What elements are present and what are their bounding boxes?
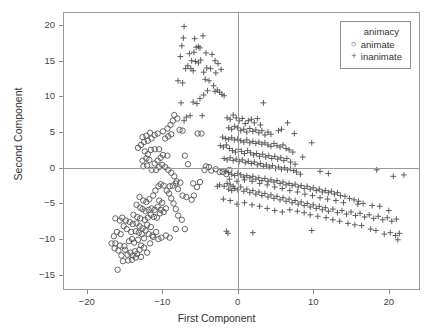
x-tick-label: 0 <box>218 297 258 307</box>
x-tick-mark <box>87 290 88 294</box>
x-tick-mark <box>162 290 163 294</box>
x-tick-label: −20 <box>67 297 107 307</box>
x-axis-label: First Component <box>0 312 433 324</box>
x-tick-label: 10 <box>293 297 333 307</box>
y-tick-label: 5 <box>19 127 55 137</box>
legend-label: inanimate <box>361 51 402 63</box>
y-tick-label: 10 <box>19 91 55 101</box>
x-tick-mark <box>389 290 390 294</box>
y-tick-label: −15 <box>19 270 55 280</box>
zero-horizontal-reference-line <box>64 168 419 169</box>
x-tick-mark <box>313 290 314 294</box>
x-tick-mark <box>238 290 239 294</box>
plot-area: animacy ○animate+inanimate <box>63 12 420 290</box>
legend-entry-inanimate: +inanimate <box>347 51 402 63</box>
plus-marker-icon: + <box>347 51 361 62</box>
x-tick-label: 20 <box>369 297 409 307</box>
legend-label: animate <box>361 39 395 51</box>
legend-entry-animate: ○animate <box>347 39 402 51</box>
legend-entries: ○animate+inanimate <box>347 39 402 63</box>
y-tick-label: 15 <box>19 56 55 66</box>
x-tick-label: −10 <box>142 297 182 307</box>
y-tick-label: −5 <box>19 198 55 208</box>
zero-vertical-reference-line <box>238 13 239 289</box>
y-tick-label: 20 <box>19 20 55 30</box>
y-tick-label: −10 <box>19 234 55 244</box>
scatter-plot-figure: Second Component −15−10−505101520 −20−10… <box>0 0 433 333</box>
series-animate <box>109 112 232 272</box>
circle-marker-icon: ○ <box>347 39 361 50</box>
legend: animacy ○animate+inanimate <box>340 21 411 69</box>
legend-title: animacy <box>347 26 402 38</box>
y-tick-label: 0 <box>19 163 55 173</box>
